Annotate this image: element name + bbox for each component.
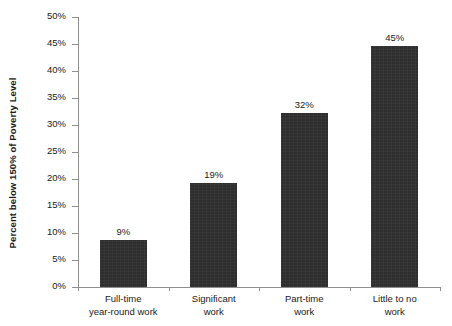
y-axis-tick-label: 20% xyxy=(47,172,66,183)
bar[interactable] xyxy=(190,183,237,287)
y-axis-tick-label: 5% xyxy=(52,253,66,264)
bar-value-label: 45% xyxy=(351,32,439,43)
x-axis-tick-mark xyxy=(350,287,351,291)
y-axis-tick-label: 30% xyxy=(47,118,66,129)
x-axis-tick-mark xyxy=(169,287,170,291)
bar[interactable] xyxy=(100,240,147,287)
category-label-line: Full-time xyxy=(105,293,141,304)
bar-group[interactable]: 9% xyxy=(79,17,167,287)
bar-group[interactable]: 19% xyxy=(170,17,258,287)
category-label-line: Part-time xyxy=(285,293,324,304)
bar-group[interactable]: 32% xyxy=(260,17,348,287)
category-label-line: Little to no xyxy=(373,293,417,304)
bar-value-label: 32% xyxy=(260,99,348,110)
x-axis-tick-mark xyxy=(259,287,260,291)
bar-group[interactable]: 45% xyxy=(351,17,439,287)
plot-area: 9%19%32%45% xyxy=(78,17,440,287)
y-axis-tick-label: 10% xyxy=(47,226,66,237)
y-axis-tick-label: 40% xyxy=(47,64,66,75)
y-axis-tick-label: 45% xyxy=(47,37,66,48)
bar-value-label: 9% xyxy=(79,226,167,237)
y-axis-tick-label: 15% xyxy=(47,199,66,210)
bar-chart: Percent below 150% of Poverty Level 50%4… xyxy=(0,0,452,326)
category-label-line: Significant xyxy=(192,293,236,304)
y-axis-title: Percent below 150% of Poverty Level xyxy=(0,0,24,326)
x-axis-tick-mark xyxy=(78,287,79,291)
y-axis-tick-label: 50% xyxy=(47,10,66,21)
y-axis-tick-label: 35% xyxy=(47,91,66,102)
x-axis-tick-mark xyxy=(440,287,441,291)
y-axis-tick-label: 25% xyxy=(47,145,66,156)
bar[interactable] xyxy=(281,113,328,287)
x-axis-category-label: Little to nowork xyxy=(340,292,450,318)
bar[interactable] xyxy=(371,46,418,287)
bar-value-label: 19% xyxy=(170,169,258,180)
y-axis-tick-label: 0% xyxy=(52,280,66,291)
category-label-line: work xyxy=(340,305,450,318)
